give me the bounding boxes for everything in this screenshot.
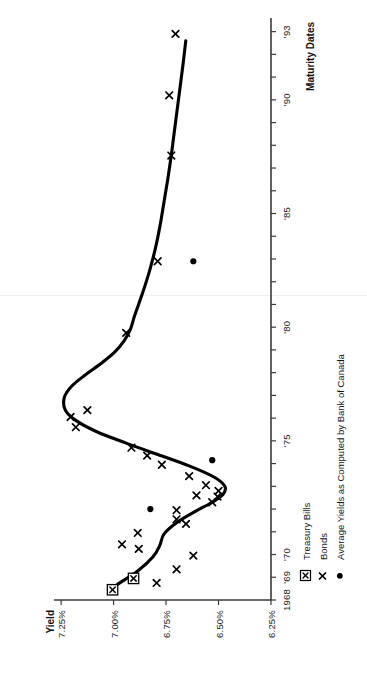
data-point-bond [173, 566, 180, 573]
dot-icon [333, 568, 347, 582]
fitted-curve [64, 41, 226, 584]
y-axis-tick-label: 6.50% [213, 610, 224, 638]
rotated-chart-wrapper: 1968'69'70'75'80'85'90'936.25%6.50%6.75%… [0, 0, 367, 680]
data-point-average-yield [190, 258, 196, 264]
y-axis-tick-label: 6.25% [266, 610, 277, 638]
x-axis-tick-label: '70 [281, 548, 292, 561]
y-axis-tick-label: 7.25% [56, 610, 67, 638]
legend-item-label: Treasury Bills [301, 503, 312, 560]
y-axis-tick-label: 6.75% [161, 610, 172, 638]
data-point-bond [183, 521, 190, 528]
data-point-bond [119, 541, 126, 548]
data-point-bond [134, 530, 141, 537]
data-point-bond [154, 258, 161, 265]
x-axis-tick-label: '85 [281, 207, 292, 220]
data-point-bond [203, 482, 210, 489]
x-axis-tick-label: '90 [281, 93, 292, 106]
data-point-bond [159, 461, 166, 468]
legend-item-label: Average Yields as Computed by Bank of Ca… [335, 354, 346, 560]
data-point-bond [193, 492, 200, 499]
data-point-average-yield [209, 457, 215, 463]
data-point-bond [215, 488, 222, 495]
data-point-bond [84, 407, 91, 414]
data-point-bond [186, 473, 193, 480]
data-point-bond [173, 507, 180, 514]
data-point-bond [73, 424, 80, 431]
x-icon [316, 568, 330, 582]
y-axis-tick-label: 7.00% [108, 610, 119, 638]
x-axis-tick-label: '69 [281, 571, 292, 584]
data-point-average-yield [147, 506, 153, 512]
boxed-x-icon [299, 568, 313, 582]
y-axis-title: Yield [45, 610, 56, 634]
legend-item-label: Bonds [318, 533, 329, 560]
x-axis-tick-label: '75 [281, 434, 292, 447]
data-point-bond [166, 92, 173, 99]
data-point-bond [144, 452, 151, 459]
x-axis-tick-label: 1968 [281, 589, 292, 611]
figure-canvas: 1968'69'70'75'80'85'90'936.25%6.50%6.75%… [0, 0, 367, 680]
x-axis-tick-label: '93 [281, 25, 292, 38]
data-point-bond [153, 580, 160, 587]
x-axis-tick-label: '80 [281, 321, 292, 334]
data-point-bond [172, 31, 179, 38]
data-point-bond [135, 546, 142, 553]
x-axis-title: Maturity Dates [305, 22, 316, 91]
data-point-bond [190, 552, 197, 559]
